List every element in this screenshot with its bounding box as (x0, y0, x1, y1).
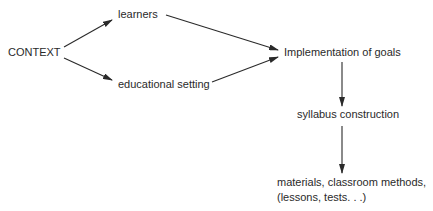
node-syllabus-construction: syllabus construction (297, 108, 399, 121)
node-materials-line2: (lessons, tests. . .) (277, 191, 366, 204)
node-context: CONTEXT (8, 46, 61, 59)
node-learners: learners (118, 8, 158, 21)
arrow-context-to-learners (64, 20, 112, 47)
node-educational-setting: educational setting (118, 78, 210, 91)
arrow-setting-to-implementation (212, 57, 278, 82)
node-implementation-of-goals: Implementation of goals (284, 46, 401, 59)
arrow-learners-to-implementation (166, 15, 278, 50)
node-materials-line1: materials, classroom methods, (277, 176, 426, 189)
arrow-context-to-educational-setting (64, 58, 112, 80)
